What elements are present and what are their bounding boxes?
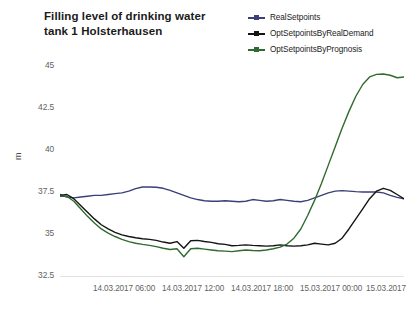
legend-label: RealSetpoints xyxy=(270,13,320,22)
y-axis-tick-labels: 32.53537.54042.545 xyxy=(18,0,54,312)
chart-title-line-1: Filling level of drinking water xyxy=(44,9,244,24)
series-line xyxy=(60,187,404,202)
y-tick-label: 42.5 xyxy=(20,102,54,112)
x-axis-tick-labels: 14.03.2017 06:0014.03.2017 12:0014.03.20… xyxy=(0,284,404,300)
x-tick-label: 15.03.2017 00:00 xyxy=(300,284,362,293)
legend-marker-icon xyxy=(248,45,265,54)
chart-title: Filling level of drinking water tank 1 H… xyxy=(44,9,244,39)
x-axis-line xyxy=(60,276,404,277)
plot-area xyxy=(60,66,404,276)
y-tick-label: 32.5 xyxy=(20,270,54,280)
series-line xyxy=(60,74,404,257)
chart-legend: RealSetpoints OptSetpointsByRealDemand O… xyxy=(248,11,404,59)
legend-label: OptSetpointsByRealDemand xyxy=(270,29,373,38)
x-tick-label: 14.03.2017 18:00 xyxy=(231,284,293,293)
legend-item-realsetpoints[interactable]: RealSetpoints xyxy=(248,11,404,24)
series-line xyxy=(60,188,404,248)
chart-title-line-2: tank 1 Holsterhausen xyxy=(44,24,244,39)
legend-item-optsetpointsbyprognosis[interactable]: OptSetpointsByPrognosis xyxy=(248,43,404,56)
legend-label: OptSetpointsByPrognosis xyxy=(270,45,362,54)
legend-marker-icon xyxy=(248,29,265,38)
series-svg xyxy=(60,66,404,276)
y-tick-label: 40 xyxy=(20,144,54,154)
y-tick-label: 45 xyxy=(20,60,54,70)
x-tick-label: 15.03.2017 xyxy=(366,284,406,293)
x-tick-label: 14.03.2017 12:00 xyxy=(162,284,224,293)
legend-item-optsetpointsbyrealdemand[interactable]: OptSetpointsByRealDemand xyxy=(248,27,404,40)
x-tick-label: 14.03.2017 06:00 xyxy=(93,284,155,293)
y-tick-label: 35 xyxy=(20,228,54,238)
y-tick-label: 37.5 xyxy=(20,186,54,196)
legend-marker-icon xyxy=(248,13,265,22)
